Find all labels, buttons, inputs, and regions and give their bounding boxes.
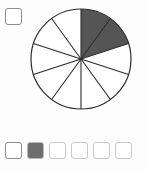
- pie-chart: [29, 7, 133, 111]
- answer-checkbox-4[interactable]: [71, 142, 88, 159]
- answer-checkbox-2[interactable]: [27, 142, 44, 159]
- pie-chart-svg: [29, 7, 133, 111]
- answer-options: [5, 142, 132, 159]
- answer-checkbox-3[interactable]: [49, 142, 66, 159]
- answer-checkbox-5[interactable]: [93, 142, 110, 159]
- question-checkbox[interactable]: [5, 8, 22, 25]
- answer-checkbox-1[interactable]: [5, 142, 22, 159]
- fraction-pie-widget: [0, 0, 146, 170]
- answer-checkbox-6[interactable]: [115, 142, 132, 159]
